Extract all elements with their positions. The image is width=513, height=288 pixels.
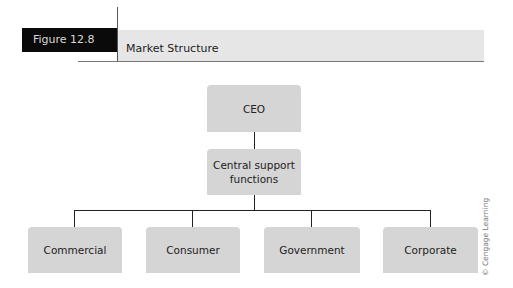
division-node-consumer: Consumer <box>146 227 240 273</box>
header-underline <box>78 61 118 62</box>
central-support-label-line2: functions <box>230 172 278 186</box>
title-band: Market Structure <box>118 30 484 62</box>
connector-division-bus <box>74 210 431 211</box>
connector-corporate <box>430 210 431 227</box>
division-label: Corporate <box>404 243 457 257</box>
figure-title: Market Structure <box>126 42 218 55</box>
connector-consumer <box>192 210 193 227</box>
division-node-commercial: Commercial <box>28 227 122 273</box>
figure-label: Figure 12.8 <box>22 28 117 52</box>
division-node-government: Government <box>264 227 360 273</box>
division-label: Commercial <box>44 243 107 257</box>
connector-commercial <box>74 210 75 227</box>
central-support-label-line1: Central support <box>213 158 295 172</box>
connector-support-bus <box>254 195 255 210</box>
connector-government <box>311 210 312 227</box>
division-label: Government <box>279 243 344 257</box>
connector-ceo-support <box>254 132 255 149</box>
copyright-credit: © Cengage Learning <box>481 198 490 276</box>
division-node-corporate: Corporate <box>383 227 478 273</box>
ceo-node: CEO <box>207 85 301 132</box>
ceo-label: CEO <box>243 102 265 116</box>
division-label: Consumer <box>166 243 220 257</box>
central-support-node: Central support functions <box>207 149 301 195</box>
